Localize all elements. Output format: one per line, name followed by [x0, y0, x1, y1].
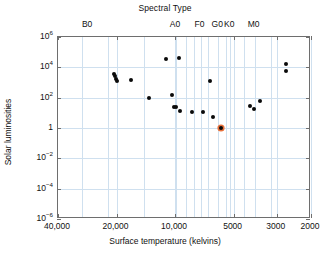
data-point-star [174, 105, 178, 109]
x-tick-label: 3000 [266, 221, 285, 231]
gridline-spectral [186, 37, 187, 217]
gridline-spectral [230, 37, 231, 217]
y-axis-tick [306, 67, 310, 68]
gridline-horizontal [58, 158, 309, 159]
spectral-type-label: M0 [248, 19, 260, 29]
y-axis-tick [306, 37, 310, 38]
gridline-spectral [108, 37, 109, 217]
gridline-horizontal [58, 67, 309, 68]
x-axis-tick [277, 36, 278, 40]
data-point-star [284, 62, 288, 66]
data-point-star [115, 79, 119, 83]
x-axis-tick [277, 214, 278, 218]
gridline-spectral [244, 37, 245, 217]
gridline-vertical [277, 37, 278, 217]
spectral-type-label: G0 [212, 19, 223, 29]
gridline-spectral [144, 37, 145, 217]
y-axis-tick [57, 37, 61, 38]
gridline-spectral [201, 37, 202, 217]
y-axis-tick [306, 189, 310, 190]
x-axis-tick [117, 214, 118, 218]
data-point-star [170, 93, 174, 97]
data-point-star [258, 99, 262, 103]
y-axis-tick [306, 128, 310, 129]
data-point-star [211, 115, 215, 119]
data-point-star [129, 78, 133, 82]
gridline-vertical [234, 37, 235, 217]
y-axis-title: Solar luminosities [3, 77, 13, 187]
gridline-spectral [194, 37, 195, 217]
data-point-star [284, 69, 288, 73]
gridline-spectral [176, 37, 177, 217]
y-axis-tick [57, 189, 61, 190]
gridline-spectral [271, 37, 272, 217]
spectral-type-label: F0 [195, 19, 205, 29]
y-tick-label: 10−4 [36, 183, 53, 193]
spectral-type-label: B0 [82, 19, 92, 29]
gridline-horizontal [58, 189, 309, 190]
x-axis-tick [58, 214, 59, 218]
gridline-spectral [226, 37, 227, 217]
x-axis-tick [234, 36, 235, 40]
x-tick-label: 2000 [301, 221, 320, 231]
x-tick-label: 40,000 [44, 221, 70, 231]
data-point-sun [219, 126, 223, 130]
y-axis-tick [57, 158, 61, 159]
y-axis-tick [57, 219, 61, 220]
y-axis-tick [306, 219, 310, 220]
x-axis-tick [311, 36, 312, 40]
y-tick-label: 102 [40, 92, 53, 102]
y-tick-label: 1 [48, 122, 53, 132]
data-point-star [164, 57, 168, 61]
x-tick-label: 20,000 [103, 221, 129, 231]
y-axis-tick [306, 158, 310, 159]
gridline-vertical [117, 37, 118, 217]
data-point-star [252, 107, 256, 111]
y-tick-label: 104 [40, 61, 53, 71]
x-tick-label: 10,000 [161, 221, 187, 231]
y-axis-tick [57, 67, 61, 68]
gridline-horizontal [58, 98, 309, 99]
x-axis-tick [234, 214, 235, 218]
y-axis-tick [57, 128, 61, 129]
data-point-star [177, 56, 181, 60]
x-axis-tick [311, 214, 312, 218]
data-point-star [208, 79, 212, 83]
y-axis-tick [57, 98, 61, 99]
data-point-star [147, 96, 151, 100]
x-axis-title: Surface temperature (kelvins) [0, 236, 330, 246]
x-axis-tick [117, 36, 118, 40]
gridline-vertical [311, 37, 312, 217]
y-tick-label: 10−2 [36, 152, 53, 162]
gridline-spectral [82, 37, 83, 217]
y-tick-label: 106 [40, 31, 53, 41]
data-point-star [201, 110, 205, 114]
y-axis-tick [306, 98, 310, 99]
spectral-type-label: A0 [170, 19, 180, 29]
gridline-spectral [208, 37, 209, 217]
data-point-star [178, 109, 182, 113]
hr-diagram-figure: Spectral Type 106104102110−210−410−6 40,… [0, 0, 330, 257]
x-tick-label: 5000 [223, 221, 242, 231]
gridline-horizontal [58, 128, 309, 129]
gridline-spectral [255, 37, 256, 217]
plot-area [57, 36, 310, 218]
spectral-type-label: K0 [224, 19, 234, 29]
